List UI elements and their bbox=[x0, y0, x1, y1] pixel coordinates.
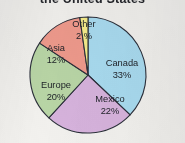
slice-value-other: 2 % bbox=[76, 31, 92, 41]
slice-label-mexico: Mexico bbox=[95, 94, 124, 104]
slice-label-europe: Europe bbox=[41, 80, 71, 90]
slice-label-canada: Canada bbox=[106, 58, 139, 68]
slice-value-europe: 20% bbox=[47, 92, 66, 102]
slice-value-canada: 33% bbox=[113, 70, 132, 80]
pie-chart-svg: Canada33%Mexico22%Europe20%Asia12%Other2… bbox=[0, 0, 185, 143]
slice-value-asia: 12% bbox=[47, 55, 66, 65]
slice-label-asia: Asia bbox=[47, 43, 66, 53]
slice-value-mexico: 22% bbox=[101, 106, 120, 116]
pie-chart-figure: the United States Canada33%Mexico22%Euro… bbox=[0, 0, 185, 143]
slice-label-other: Other bbox=[72, 19, 95, 29]
